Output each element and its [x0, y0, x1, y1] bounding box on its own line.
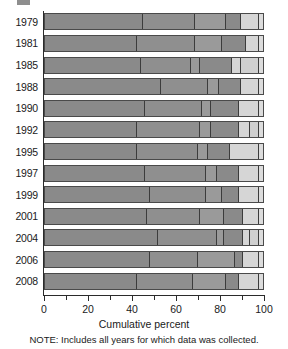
bar-row: 1981	[44, 35, 264, 52]
stacked-bar	[44, 273, 264, 290]
bar-segment	[206, 166, 217, 181]
bar-row: 1992	[44, 121, 264, 138]
y-axis-category-label: 1979	[15, 16, 38, 28]
bar-row: 2004	[44, 229, 264, 246]
bar-segment	[208, 144, 230, 159]
bar-row: 1985	[44, 57, 264, 74]
bar-segment	[137, 122, 200, 137]
bar-segment	[200, 122, 211, 137]
bar-segment	[250, 230, 259, 245]
bar-segment	[45, 79, 161, 94]
plot-area: 1979198119851988199019921995199719992001…	[44, 11, 264, 292]
bar-segment	[198, 144, 209, 159]
stacked-bar	[44, 165, 264, 182]
stacked-bar	[44, 35, 264, 52]
bar-segment	[217, 166, 239, 181]
bar-row: 1988	[44, 78, 264, 95]
bar-segment	[45, 230, 158, 245]
bar-segment	[208, 79, 219, 94]
x-axis-tick	[264, 296, 265, 301]
x-axis-minor-tick	[110, 296, 111, 300]
bar-segment	[143, 14, 195, 29]
bar-segment	[45, 187, 150, 202]
bar-segment	[226, 14, 241, 29]
bar-segment	[222, 187, 239, 202]
bar-segment	[259, 14, 263, 29]
bar-segment	[224, 230, 244, 245]
chart-note: NOTE: Includes all years for which data …	[0, 334, 288, 345]
bar-segment	[259, 144, 263, 159]
y-axis-category-label: 2004	[15, 232, 38, 244]
bar-segment	[45, 144, 137, 159]
y-axis-category-label: 1988	[15, 81, 38, 93]
bar-segment	[195, 36, 221, 51]
bar-segment	[45, 101, 145, 116]
stacked-bar	[44, 208, 264, 225]
bar-segment	[259, 166, 263, 181]
x-axis-tick-label: 60	[170, 303, 182, 315]
bar-segment	[150, 187, 207, 202]
bar-segment	[45, 122, 137, 137]
bar-segment	[45, 274, 137, 289]
x-axis-tick	[88, 296, 89, 301]
stacked-bar	[44, 251, 264, 268]
x-axis-tick-label: 80	[214, 303, 226, 315]
bar-segment	[45, 58, 141, 73]
bar-segment	[239, 166, 259, 181]
bar-row: 1979	[44, 13, 264, 30]
bar-segment	[211, 101, 239, 116]
x-axis-minor-tick	[242, 296, 243, 300]
bar-segment	[259, 274, 263, 289]
x-axis-minor-tick	[154, 296, 155, 300]
bar-segment	[239, 122, 250, 137]
stacked-bar	[44, 78, 264, 95]
bar-segment	[202, 101, 211, 116]
bar-row: 1990	[44, 100, 264, 117]
stacked-bar	[44, 13, 264, 30]
y-axis-category-label: 1992	[15, 124, 38, 136]
bar-segment	[239, 187, 259, 202]
stacked-bar	[44, 186, 264, 203]
x-axis-tick-label: 40	[126, 303, 138, 315]
bar-row: 2008	[44, 273, 264, 290]
bar-segment	[193, 274, 226, 289]
bar-segment	[200, 58, 233, 73]
bar-segment	[259, 122, 263, 137]
bar-segment	[45, 252, 150, 267]
image-crop-artifact	[17, 0, 30, 5]
bar-segment	[246, 36, 259, 51]
bar-segment	[195, 14, 226, 29]
bar-segment	[259, 230, 263, 245]
bar-segment	[259, 36, 263, 51]
bar-segment	[250, 122, 259, 137]
bar-segment	[259, 252, 263, 267]
bar-segment	[219, 79, 241, 94]
bar-segment	[259, 79, 263, 94]
stacked-bar	[44, 121, 264, 138]
x-axis-tick-label: 0	[41, 303, 47, 315]
bar-segment	[259, 209, 263, 224]
x-axis-title: Cumulative percent	[0, 318, 288, 330]
bar-segment	[141, 58, 191, 73]
stacked-bar	[44, 100, 264, 117]
bar-segment	[232, 58, 241, 73]
bar-segment	[45, 209, 147, 224]
x-axis-tick	[220, 296, 221, 301]
bar-segment	[158, 230, 217, 245]
bar-row: 1995	[44, 143, 264, 160]
bar-row: 1999	[44, 186, 264, 203]
bar-segment	[243, 209, 258, 224]
y-axis-category-label: 1990	[15, 102, 38, 114]
bar-segment	[45, 166, 145, 181]
bar-segment	[137, 144, 198, 159]
stacked-bar-chart: 1979198119851988199019921995199719992001…	[0, 0, 288, 349]
bar-segment	[241, 14, 258, 29]
bar-segment	[206, 187, 221, 202]
y-axis-category-label: 2008	[15, 275, 38, 287]
bar-segment	[145, 166, 206, 181]
y-axis-category-label: 2006	[15, 254, 38, 266]
stacked-bar	[44, 229, 264, 246]
bar-segment	[235, 252, 244, 267]
x-axis-tick	[132, 296, 133, 301]
bar-segment	[137, 36, 196, 51]
